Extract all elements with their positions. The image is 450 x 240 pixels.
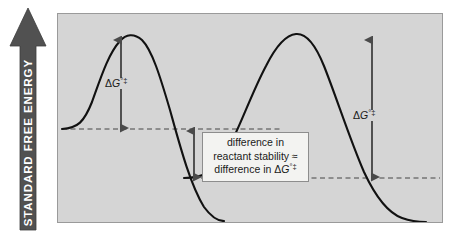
- energy-diagram-svg: [58, 14, 443, 223]
- right-activation-energy-label: ΔG°‡: [352, 110, 376, 121]
- right-reaction-coordinate-curve: [184, 34, 426, 222]
- callout-superscript: °‡: [289, 162, 296, 171]
- left-delta-symbol: Δ: [105, 77, 112, 89]
- callout-line-1: difference in: [207, 136, 304, 150]
- reactant-stability-callout: difference in reactant stability ≈ diffe…: [202, 132, 309, 182]
- figure-root: STANDARD FREE ENERGY: [0, 0, 450, 240]
- right-g-symbol: G: [360, 109, 368, 121]
- right-superscript: °‡: [368, 108, 375, 117]
- callout-line-3-prefix: difference in: [214, 163, 274, 175]
- plot-area: ΔG°‡ ΔG°‡ difference in reactant stabili…: [57, 13, 443, 223]
- left-activation-energy-label: ΔG°‡: [104, 78, 128, 89]
- right-delta-symbol: Δ: [353, 109, 360, 121]
- standard-free-energy-axis: STANDARD FREE ENERGY: [8, 6, 48, 232]
- left-superscript: °‡: [120, 76, 127, 85]
- callout-line-3: difference in ΔG°‡: [207, 163, 304, 177]
- up-arrow-icon: [8, 6, 48, 232]
- left-g-symbol: G: [112, 77, 120, 89]
- left-reaction-coordinate-curve: [62, 35, 224, 221]
